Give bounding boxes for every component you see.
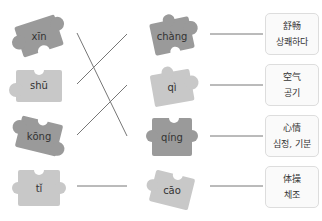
pinyin-label: shū — [8, 64, 70, 106]
meaning-box-kongqi: 空气 공기 — [265, 64, 319, 106]
puzzle-piece-qing[interactable]: qíng — [140, 114, 204, 160]
pinyin-label: xīn — [8, 12, 70, 60]
meaning-box-xinqing: 心情 심정, 기분 — [265, 115, 319, 157]
puzzle-piece-xin[interactable]: xīn — [8, 12, 70, 60]
pinyin-label: qíng — [140, 114, 204, 160]
pinyin-label: qì — [140, 64, 204, 110]
pinyin-label: chàng — [140, 12, 204, 60]
pinyin-label: tǐ — [8, 166, 70, 210]
korean-meaning: 상쾌하다 — [276, 34, 308, 50]
korean-meaning: 체조 — [284, 187, 300, 203]
korean-meaning: 심정, 기분 — [273, 136, 311, 152]
chinese-word: 体操 — [283, 171, 301, 187]
chinese-word: 舒畅 — [283, 18, 301, 34]
chinese-word: 心情 — [283, 120, 301, 136]
pinyin-label: kōng — [8, 112, 70, 160]
puzzle-piece-cao[interactable]: cāo — [140, 166, 204, 214]
meaning-box-ticao: 体操 체조 — [265, 166, 319, 208]
pinyin-label: cāo — [140, 166, 204, 214]
chinese-word: 空气 — [283, 69, 301, 85]
puzzle-piece-chang[interactable]: chàng — [140, 12, 204, 60]
korean-meaning: 공기 — [284, 85, 300, 101]
puzzle-piece-ti[interactable]: tǐ — [8, 166, 70, 210]
puzzle-piece-kong[interactable]: kōng — [8, 112, 70, 160]
puzzle-piece-shu[interactable]: shū — [8, 64, 70, 106]
puzzle-piece-qi[interactable]: qì — [140, 64, 204, 110]
meaning-box-shuchang: 舒畅 상쾌하다 — [265, 13, 319, 55]
